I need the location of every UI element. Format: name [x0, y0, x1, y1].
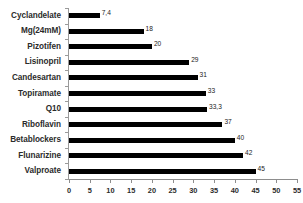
bar-value-label: 45	[258, 165, 265, 172]
category-label: Mg(24mM)	[0, 26, 61, 35]
bar-value-label: 7,4	[102, 9, 111, 16]
x-axis-tick	[256, 179, 257, 183]
category-label: Riboflavin	[0, 120, 61, 129]
x-axis-tick-label: 10	[100, 186, 120, 195]
bar	[69, 44, 152, 49]
y-axis-tick	[65, 55, 69, 56]
bar	[69, 13, 100, 18]
category-axis-labels: CyclandelateMg(24mM)PizotifenLisinoprilC…	[0, 8, 64, 179]
x-axis-tick	[235, 179, 236, 183]
x-axis-tick-label: 0	[59, 186, 79, 195]
bar-value-label: 37	[224, 118, 231, 125]
bar-value-label: 42	[245, 149, 252, 156]
bar	[69, 122, 222, 127]
category-label: Betablockers	[0, 135, 61, 144]
y-axis-tick	[65, 70, 69, 71]
x-axis-tick-label: 20	[142, 186, 162, 195]
bar-value-label: 31	[200, 71, 207, 78]
bar-value-label: 18	[146, 25, 153, 32]
bar-value-label: 40	[237, 134, 244, 141]
x-axis-tick	[69, 179, 70, 183]
category-label: Flunarizine	[0, 151, 61, 160]
category-label: Cyclandelate	[0, 11, 61, 20]
y-axis-tick	[65, 24, 69, 25]
plot-area: 7,4182029313333,337404245051015202530354…	[69, 8, 297, 179]
y-axis-tick	[65, 86, 69, 87]
bar-value-label: 33	[208, 87, 215, 94]
x-axis-tick	[173, 179, 174, 183]
y-axis-tick	[65, 163, 69, 164]
category-label: Lisinopril	[0, 57, 61, 66]
x-axis-tick	[152, 179, 153, 183]
x-axis-tick-label: 5	[80, 186, 100, 195]
x-axis-tick	[131, 179, 132, 183]
x-axis-tick-label: 35	[204, 186, 224, 195]
x-axis-tick	[297, 179, 298, 183]
bar	[69, 107, 207, 112]
bar-value-label: 20	[154, 40, 161, 47]
category-label: Q10	[0, 104, 61, 113]
bar-value-label: 33,3	[209, 103, 222, 110]
x-axis-tick	[110, 179, 111, 183]
bar	[69, 29, 144, 34]
bar	[69, 60, 189, 65]
x-axis-tick-label: 30	[183, 186, 203, 195]
category-label: Pizotifen	[0, 42, 61, 51]
y-axis-tick	[65, 101, 69, 102]
y-axis-tick	[65, 39, 69, 40]
x-axis-tick	[276, 179, 277, 183]
bar	[69, 75, 198, 80]
category-label: Topiramate	[0, 89, 61, 98]
bar-value-label: 29	[191, 56, 198, 63]
x-axis-tick-label: 25	[163, 186, 183, 195]
y-axis-tick	[65, 132, 69, 133]
x-axis-tick-label: 50	[266, 186, 286, 195]
x-axis-tick	[193, 179, 194, 183]
bar	[69, 169, 256, 174]
y-axis-tick	[65, 148, 69, 149]
x-axis-tick-label: 45	[246, 186, 266, 195]
x-axis-tick-label: 15	[121, 186, 141, 195]
x-axis-tick	[214, 179, 215, 183]
category-label: Valproate	[0, 166, 61, 175]
bar	[69, 153, 243, 158]
category-label: Candesartan	[0, 73, 61, 82]
x-axis-tick-label: 55	[287, 186, 303, 195]
bar-chart: CyclandelateMg(24mM)PizotifenLisinoprilC…	[0, 0, 303, 203]
y-axis-tick	[65, 8, 69, 9]
y-axis-tick	[65, 117, 69, 118]
bar	[69, 138, 235, 143]
bar	[69, 91, 206, 96]
x-axis-tick	[90, 179, 91, 183]
x-axis-line	[68, 179, 297, 180]
x-axis-tick-label: 40	[225, 186, 245, 195]
